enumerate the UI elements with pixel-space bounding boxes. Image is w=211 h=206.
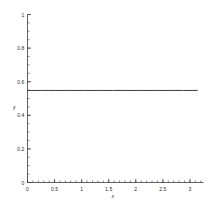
x-tick-label: 1 [74,186,90,192]
x-tick-label: 3 [182,186,198,192]
plot-figure: 00.20.40.60.81 00.511.522.53 x y [0,0,211,206]
x-tick-label: 0.5 [47,186,63,192]
x-tick-label: 2 [128,186,144,192]
x-tick-label: 2.5 [155,186,171,192]
y-axis-label: y [13,104,16,110]
y-tick-label: 0.6 [0,79,25,85]
x-tick-label: 1.5 [101,186,117,192]
x-axis-label: x [111,193,114,199]
y-tick-label: 0.2 [0,146,25,152]
x-axis-major-ticks [28,179,190,183]
y-tick-label: 0.8 [0,45,25,51]
y-tick-label: 1 [0,12,25,18]
y-tick-label: 0.4 [0,112,25,118]
x-tick-label: 0 [20,186,36,192]
plot-canvas [0,0,211,206]
